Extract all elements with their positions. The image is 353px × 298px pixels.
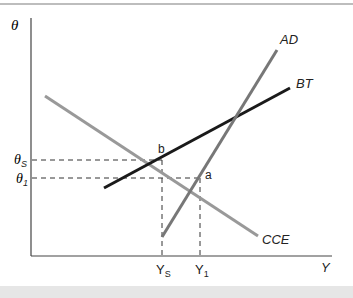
y-s-label: YS [156,262,171,279]
theta-1-label: θ1 [16,171,28,188]
cce-label: CCE [262,232,290,247]
point-a-label: a [205,168,212,182]
point-b-label: b [158,142,165,156]
y-1-label: Y1 [195,262,209,279]
bt-label: BT [296,76,314,91]
ad-label: AD [279,32,298,47]
y-axis-label: θ [11,17,19,33]
cce-curve [45,96,258,236]
bt-curve [104,88,290,188]
theta-s-label: θS [14,152,27,169]
diagram-canvas: θ Y AD BT CCE b a θS θ1 YS Y1 [0,0,353,298]
x-axis-label: Y [321,260,331,275]
